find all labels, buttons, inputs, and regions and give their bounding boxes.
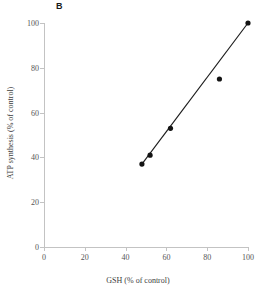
x-tick: [207, 247, 208, 251]
y-axis-title: ATP synthesis (% of control): [6, 8, 16, 258]
x-tick-label: 20: [81, 253, 89, 262]
data-point: [217, 76, 222, 81]
x-axis-title: GSH (% of control): [0, 276, 276, 286]
data-point: [139, 162, 144, 167]
x-tick-label: 40: [122, 253, 130, 262]
x-tick-label: 80: [203, 253, 211, 262]
x-tick: [248, 247, 249, 251]
y-axis-title-wrap: ATP synthesis (% of control): [0, 0, 18, 270]
y-tick-label: 60: [31, 108, 39, 117]
plot-area: 020406080100 020406080100: [44, 23, 248, 247]
x-tick: [126, 247, 127, 251]
x-axis-line: [44, 247, 249, 248]
regression-line: [142, 23, 248, 164]
data-point: [168, 126, 173, 131]
y-tick-label: 40: [31, 153, 39, 162]
data-point: [147, 153, 152, 158]
x-tick: [85, 247, 86, 251]
figure-panel-b: B 020406080100 020406080100 ATP synthesi…: [0, 0, 276, 297]
x-tick-label: 0: [42, 253, 46, 262]
y-tick-label: 80: [31, 63, 39, 72]
x-tick: [166, 247, 167, 251]
panel-label: B: [56, 1, 63, 12]
x-tick-label: 60: [162, 253, 170, 262]
y-tick-label: 100: [27, 19, 39, 28]
x-tick-label: 100: [242, 253, 254, 262]
data-point: [245, 20, 250, 25]
y-tick-label: 20: [31, 198, 39, 207]
y-tick-label: 0: [35, 243, 39, 252]
data-layer: [44, 23, 248, 247]
x-tick: [44, 247, 45, 251]
